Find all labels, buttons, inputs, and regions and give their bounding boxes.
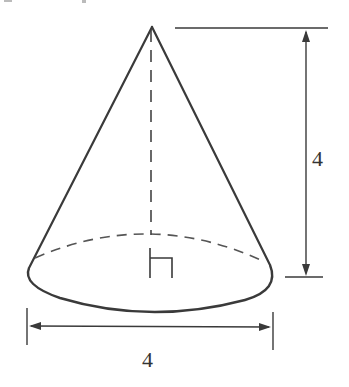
cropped-caption-fragment: [4, 0, 86, 3]
diameter-label: 4: [142, 347, 153, 372]
height-dimension: [175, 28, 328, 277]
cone-slant-edges: [29, 27, 270, 268]
right-angle-marker: [150, 248, 172, 278]
cone-diagram: 4 4: [0, 0, 349, 387]
diameter-dimension: [27, 308, 273, 350]
height-label: 4: [312, 146, 323, 171]
